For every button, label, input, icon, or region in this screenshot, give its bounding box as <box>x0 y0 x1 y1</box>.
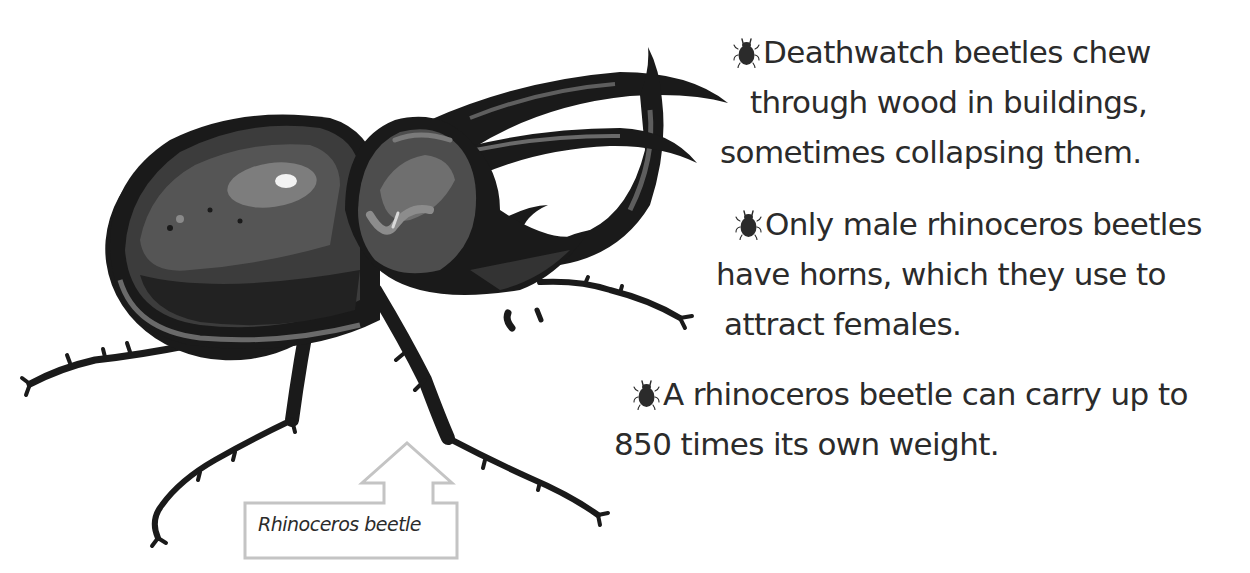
fact-3-line-2: 850 times its own weight. <box>614 419 1250 469</box>
fact-rhinoceros-strength: A rhinoceros beetle can carry up to 850 … <box>0 369 1250 469</box>
beetle-bullet-icon <box>633 378 660 410</box>
illustration-label: Rhinoceros beetle <box>258 513 421 535</box>
fact-1-line-1: Deathwatch beetles chew <box>763 34 1151 70</box>
fact-deathwatch-beetles: Deathwatch beetles chew through wood in … <box>0 27 1250 177</box>
fact-1-line-2: through wood in buildings, <box>750 77 1250 127</box>
beetle-bullet-icon <box>733 36 760 68</box>
fact-2-line-1: Only male rhinoceros beetles <box>765 206 1202 242</box>
fact-1-line-3: sometimes collapsing them. <box>720 127 1250 177</box>
beetle-bullet-icon <box>735 208 762 240</box>
fact-male-rhinoceros-horns: Only male rhinoceros beetles have horns,… <box>0 199 1250 349</box>
fact-3-line-1: A rhinoceros beetle can carry up to <box>663 376 1188 412</box>
fact-2-line-3: attract females. <box>724 299 1250 349</box>
fact-2-line-2: have horns, which they use to <box>716 249 1250 299</box>
